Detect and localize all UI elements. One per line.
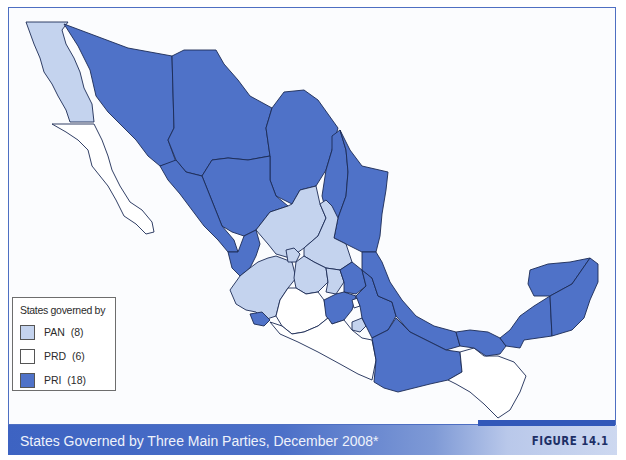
- state-campeche: [500, 296, 552, 348]
- mexico-map: [0, 0, 626, 460]
- figure-number: FIGURE 14.1: [532, 433, 609, 448]
- legend-title: States governed by: [20, 304, 108, 316]
- prd-swatch: [20, 349, 35, 364]
- legend-item-pan: PAN (8): [20, 322, 108, 342]
- state-chihuahua: [168, 50, 272, 176]
- pri-swatch: [20, 373, 35, 388]
- legend-label-pan: PAN (8): [44, 326, 83, 338]
- legend-item-pri: PRI (18): [20, 370, 108, 390]
- legend-label-prd: PRD (6): [44, 350, 85, 362]
- map-legend: States governed by PAN (8) PRD (6) PRI (…: [12, 297, 116, 391]
- pan-swatch: [20, 325, 35, 340]
- legend-item-prd: PRD (6): [20, 346, 108, 366]
- caption-banner: States Governed by Three Main Parties, D…: [8, 425, 617, 455]
- banner-accent-strip: [478, 420, 615, 426]
- legend-label-pri: PRI (18): [44, 374, 86, 386]
- figure-caption: States Governed by Three Main Parties, D…: [20, 433, 378, 449]
